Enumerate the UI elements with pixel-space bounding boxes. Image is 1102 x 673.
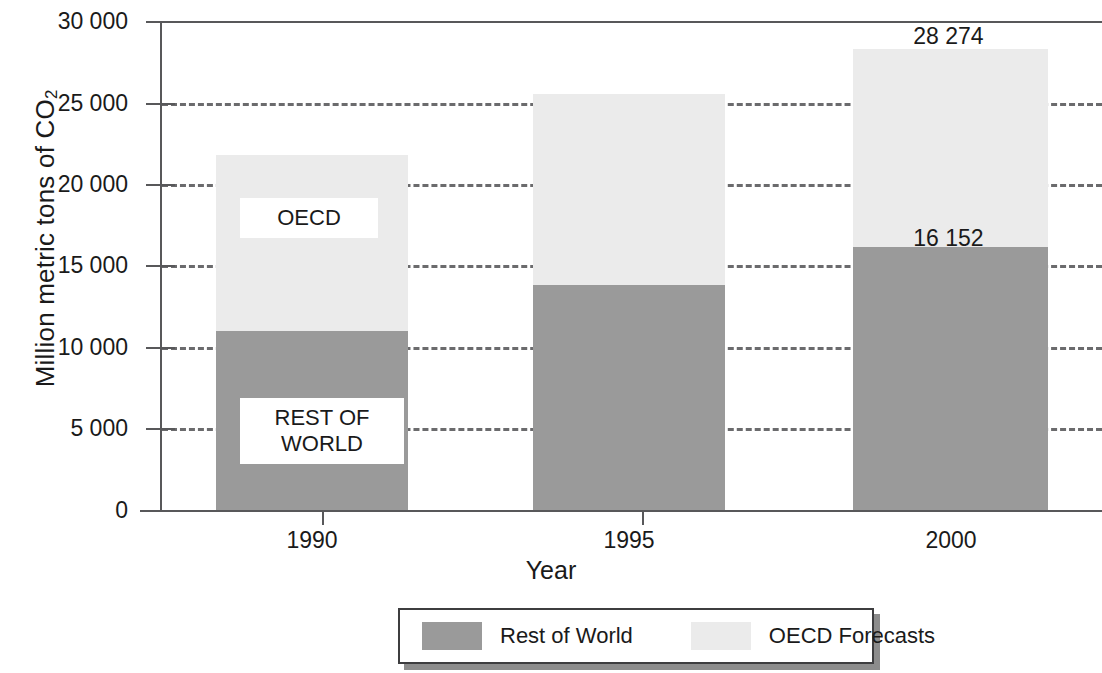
bar-group-1995 bbox=[533, 94, 725, 511]
y-tick-mark-0 bbox=[146, 510, 175, 512]
x-axis-line bbox=[140, 510, 1102, 512]
y-tick-label-25000: 25 000 bbox=[0, 92, 128, 115]
bar-segment-rest-of-world-2000 bbox=[853, 247, 1048, 511]
y-tick-mark-15000 bbox=[146, 265, 175, 267]
data-label-rest-of-world-2000: 16 152 bbox=[851, 225, 1046, 252]
y-axis-line bbox=[160, 22, 162, 512]
x-tick-label-1990: 1990 bbox=[232, 527, 392, 554]
x-axis-title: Year bbox=[0, 556, 1102, 585]
bar-segment-oecd-1990 bbox=[216, 155, 408, 331]
annotation-oecd: OECD bbox=[240, 198, 378, 238]
y-tick-label-10000: 10 000 bbox=[0, 336, 128, 359]
y-tick-mark-5000 bbox=[146, 428, 175, 430]
x-tick-label-1995: 1995 bbox=[549, 527, 709, 554]
y-tick-label-15000: 15 000 bbox=[0, 254, 128, 277]
x-tick-label-2000: 2000 bbox=[871, 527, 1031, 554]
legend-swatch-oecd-forecasts bbox=[691, 622, 751, 650]
y-tick-label-20000: 20 000 bbox=[0, 173, 128, 196]
legend-swatch-rest-of-world bbox=[422, 622, 482, 650]
legend-entry-oecd-forecasts[interactable]: OECD Forecasts bbox=[691, 622, 935, 650]
y-tick-mark-25000 bbox=[146, 103, 175, 105]
legend: Rest of World OECD Forecasts bbox=[398, 608, 874, 664]
y-tick-mark-20000 bbox=[146, 184, 175, 186]
x-tick-mark-1 bbox=[322, 511, 324, 525]
y-tick-label-0: 0 bbox=[0, 499, 128, 522]
legend-label-oecd-forecasts: OECD Forecasts bbox=[769, 623, 935, 649]
bar-group-2000 bbox=[853, 49, 1048, 511]
bar-segment-rest-of-world-1995 bbox=[533, 285, 725, 511]
bar-segment-oecd-1995 bbox=[533, 94, 725, 285]
legend-label-rest-of-world: Rest of World bbox=[500, 623, 633, 649]
y-tick-label-30000: 30 000 bbox=[0, 10, 128, 33]
stacked-bar-chart: Million metric tons of CO2 OECD REST OF … bbox=[0, 0, 1102, 673]
x-tick-mark-2 bbox=[642, 511, 644, 525]
y-tick-label-5000: 5 000 bbox=[0, 417, 128, 440]
plot-top-rule bbox=[160, 21, 1102, 23]
annotation-rest-of-world: REST OF WORLD bbox=[240, 398, 404, 464]
y-tick-mark-10000 bbox=[146, 347, 175, 349]
data-label-total-2000: 28 274 bbox=[851, 23, 1046, 50]
bar-segment-oecd-2000 bbox=[853, 49, 1048, 247]
legend-entry-rest-of-world[interactable]: Rest of World bbox=[422, 622, 633, 650]
y-tick-mark-30000 bbox=[146, 21, 175, 23]
